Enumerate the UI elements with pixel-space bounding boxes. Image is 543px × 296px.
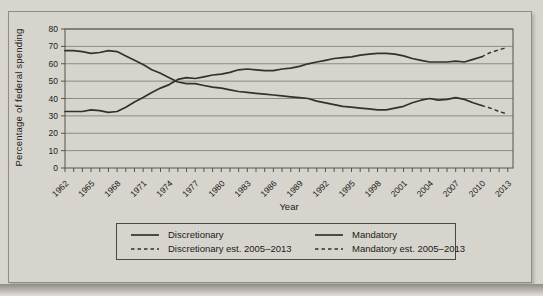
y-tick-label: 70	[49, 41, 59, 51]
textbook-chart-figure: 0102030405060708019621965196819711974197…	[0, 0, 543, 296]
legend-item-mandatory: Mandatory	[313, 229, 465, 240]
x-tick-label: 1995	[336, 178, 357, 199]
x-tick-label: 2001	[389, 178, 410, 199]
y-tick-label: 80	[49, 24, 59, 34]
dashed-line-icon	[313, 245, 345, 253]
mandatory-est-2005-2013-line	[482, 47, 508, 57]
y-tick-label: 60	[49, 59, 59, 69]
legend-label: Mandatory	[352, 229, 397, 240]
legend-label: Discretionary	[168, 229, 223, 240]
x-tick-label: 1974	[154, 178, 175, 199]
x-tick-label: 1983	[232, 178, 253, 199]
y-tick-label: 20	[49, 128, 59, 138]
solid-line-icon	[313, 231, 345, 239]
y-tick-label: 40	[49, 94, 59, 104]
x-tick-label: 1971	[128, 178, 149, 199]
x-tick-label: 2010	[467, 178, 488, 199]
y-tick-label: 0	[53, 163, 58, 173]
x-tick-label: 2004	[415, 178, 436, 199]
x-tick-label: 1962	[50, 178, 71, 199]
legend-item-discretionary-est: Discretionary est. 2005–2013	[129, 243, 313, 254]
dashed-line-icon	[129, 245, 161, 253]
x-tick-label: 1980	[206, 178, 227, 199]
x-tick-label: 1965	[76, 178, 97, 199]
legend: Discretionary Mandatory Discretionary es…	[116, 223, 456, 260]
x-tick-label: 1968	[102, 178, 123, 199]
x-tick-label: 1998	[363, 178, 384, 199]
x-tick-label: 1992	[310, 178, 331, 199]
discretionary-est-2005-2013-line	[482, 106, 508, 115]
page-edge-shadow	[0, 284, 543, 296]
x-tick-label: 1989	[284, 178, 305, 199]
x-axis-title: Year	[65, 201, 513, 212]
x-tick-label: 2013	[493, 178, 514, 199]
legend-item-mandatory-est: Mandatory est. 2005–2013	[313, 243, 465, 254]
y-axis-title: Percentage of federal spending	[13, 28, 24, 168]
legend-label: Discretionary est. 2005–2013	[168, 243, 292, 254]
y-tick-label: 50	[49, 76, 59, 86]
x-tick-label: 1986	[258, 178, 279, 199]
legend-item-discretionary: Discretionary	[129, 229, 313, 240]
y-tick-label: 10	[49, 146, 59, 156]
mandatory-line	[65, 53, 482, 112]
legend-label: Mandatory est. 2005–2013	[352, 243, 465, 254]
x-tick-label: 1977	[180, 178, 201, 199]
solid-line-icon	[129, 231, 161, 239]
y-tick-label: 30	[49, 111, 59, 121]
x-tick-label: 2007	[441, 178, 462, 199]
